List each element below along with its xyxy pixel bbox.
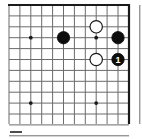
black-stone-icon: [57, 32, 69, 44]
black-stone-move-1[interactable]: 1: [112, 53, 124, 65]
star-point-left-upper: [29, 36, 33, 40]
white-stone-icon: [90, 21, 102, 33]
black-stone-left[interactable]: [57, 32, 69, 44]
star-point-right-lower: [94, 101, 98, 105]
caption-group: [10, 131, 22, 133]
go-board[interactable]: 1: [0, 0, 142, 139]
stone-move-number: 1: [115, 55, 120, 65]
caption-dash: [10, 131, 22, 133]
star-point-right-upper: [94, 36, 98, 40]
black-stone-right[interactable]: [112, 32, 124, 44]
star-point-left-lower: [29, 101, 33, 105]
diagram-background: [0, 0, 142, 139]
white-stone-lower[interactable]: [90, 53, 102, 65]
white-stone-icon: [90, 53, 102, 65]
black-stone-icon: [112, 32, 124, 44]
go-diagram-root: 1: [0, 0, 142, 139]
white-stone-upper[interactable]: [90, 21, 102, 33]
